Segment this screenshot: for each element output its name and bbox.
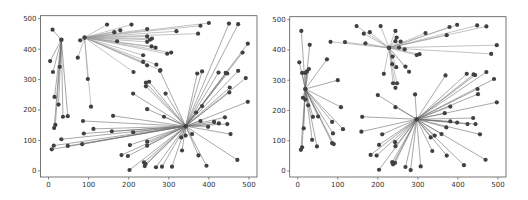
node-point <box>207 21 211 25</box>
node-point <box>354 24 358 28</box>
node-point <box>462 163 466 167</box>
node-point <box>362 32 366 36</box>
node-point <box>154 63 158 67</box>
node-point <box>419 164 423 168</box>
node-point <box>200 104 204 108</box>
node-point <box>154 165 158 169</box>
node-point <box>375 153 379 157</box>
y-tick-label: 300 <box>23 76 36 84</box>
node-point <box>118 28 122 32</box>
node-point <box>81 119 85 123</box>
node-point <box>236 22 240 26</box>
node-point <box>368 30 372 34</box>
x-tick-label: 400 <box>451 181 464 189</box>
node-point <box>194 110 198 114</box>
node-point <box>391 81 395 85</box>
node-point <box>495 100 499 104</box>
node-point <box>143 164 147 168</box>
node-point <box>393 29 397 33</box>
y-tick-label: 300 <box>272 77 285 85</box>
chart-2: 01002003004005000100200300400500 <box>272 16 506 189</box>
node-point <box>305 69 309 73</box>
node-point <box>471 116 475 120</box>
hub-e-point <box>387 46 392 51</box>
node-point <box>48 59 52 63</box>
node-point <box>115 39 119 43</box>
node-point <box>51 70 55 74</box>
node-point <box>160 165 164 169</box>
y-tick-label: 100 <box>23 137 36 145</box>
node-point <box>127 168 131 172</box>
node-point <box>395 35 399 39</box>
node-point <box>225 71 229 75</box>
node-point <box>89 105 93 109</box>
node-point <box>110 129 114 133</box>
node-point <box>216 71 220 75</box>
node-point <box>212 120 216 124</box>
node-point <box>390 160 394 164</box>
node-point <box>377 168 381 172</box>
node-point <box>465 72 469 76</box>
node-point <box>363 41 367 45</box>
node-point <box>145 107 149 111</box>
hub-f-point <box>414 117 419 122</box>
node-point <box>377 143 381 147</box>
node-point <box>475 87 479 91</box>
node-point <box>332 142 336 146</box>
node-point <box>328 40 332 44</box>
node-point <box>196 153 200 157</box>
x-tick-label: 400 <box>202 181 215 189</box>
node-point <box>448 119 452 123</box>
x-tick-label: 500 <box>491 181 504 189</box>
x-tick-label: 200 <box>122 181 135 189</box>
node-point <box>473 73 477 77</box>
node-point <box>299 29 303 33</box>
node-point <box>306 103 310 107</box>
node-point <box>204 164 208 168</box>
node-point <box>403 165 407 169</box>
x-tick-label: 100 <box>82 181 95 189</box>
node-point <box>476 92 480 96</box>
node-point <box>162 115 166 119</box>
x-tick-label: 0 <box>46 181 50 189</box>
node-point <box>489 52 493 56</box>
node-point <box>196 32 200 36</box>
node-point <box>379 24 383 28</box>
y-tick-label: 500 <box>23 15 36 23</box>
node-point <box>390 62 394 66</box>
node-point <box>195 71 199 75</box>
node-point <box>455 120 459 124</box>
node-point <box>169 50 173 54</box>
node-point <box>311 115 315 119</box>
node-point <box>52 144 56 148</box>
node-point <box>393 105 397 109</box>
y-tick-label: 100 <box>272 137 285 145</box>
node-point <box>299 148 303 152</box>
node-point <box>80 142 84 146</box>
node-point <box>447 25 451 29</box>
network-scatter-plots: 0100200300400500010020030040050001002003… <box>0 0 528 200</box>
node-point <box>52 126 56 130</box>
node-point <box>78 38 82 42</box>
node-point <box>308 43 312 47</box>
node-point <box>397 45 401 49</box>
node-point <box>430 149 434 153</box>
node-point <box>144 84 148 88</box>
node-point <box>145 40 149 44</box>
node-point <box>128 143 132 147</box>
y-tick-label: 200 <box>272 107 285 115</box>
node-point <box>376 93 380 97</box>
node-point <box>66 114 70 118</box>
node-point <box>484 24 488 28</box>
hub-a-point <box>59 37 64 42</box>
node-point <box>158 69 162 73</box>
node-point <box>165 52 169 56</box>
node-point <box>145 140 149 144</box>
y-tick-label: 400 <box>272 46 285 54</box>
node-point <box>59 137 63 141</box>
y-tick-label: 0 <box>32 167 36 175</box>
node-point <box>206 125 210 129</box>
hub-b-point <box>82 35 87 40</box>
node-point <box>492 77 496 81</box>
node-point <box>484 70 488 74</box>
